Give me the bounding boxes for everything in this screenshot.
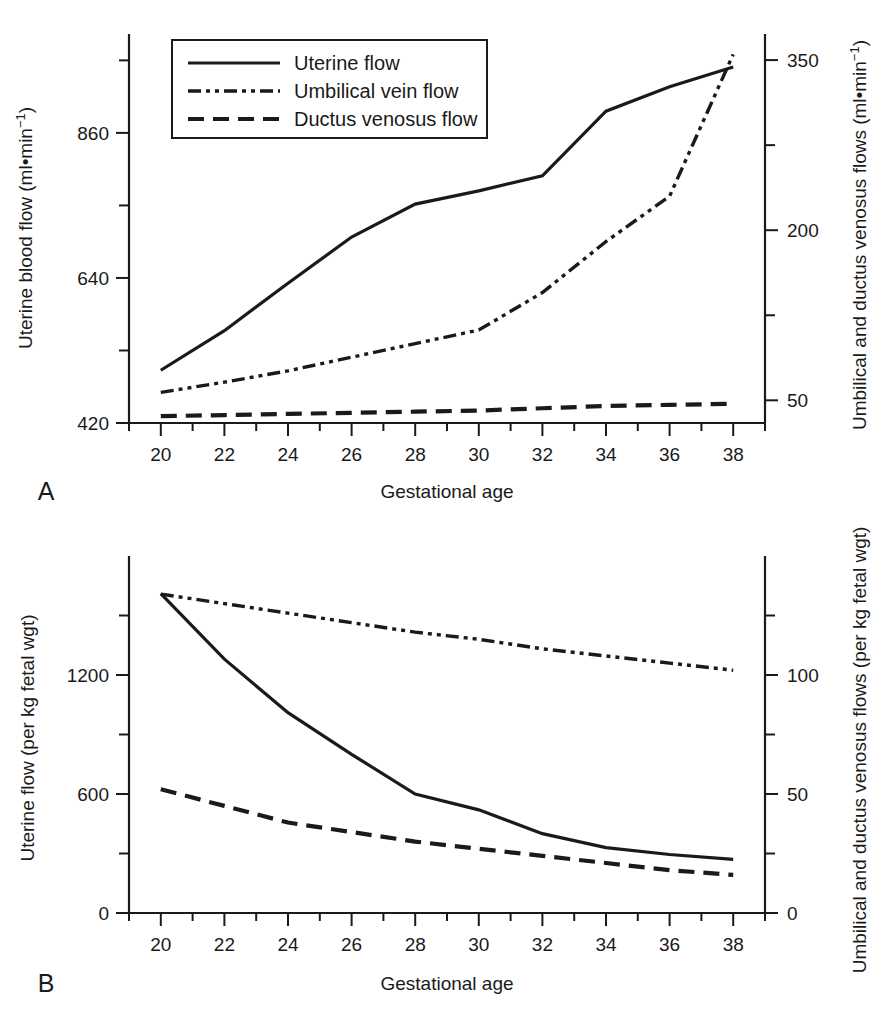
y-right-tick-label: 350 [787,50,819,71]
panel-a-plot: 2022242628303234363842064086050200350Ute… [0,0,890,520]
y-right-tick-label: 200 [787,220,819,241]
y-axis-left-tick-labels: 420640860 [77,123,109,434]
panel-b-xlabel: Gestational age [380,973,513,994]
x-tick-label: 28 [405,444,426,465]
x-tick-label: 36 [659,934,680,955]
x-tick-label: 22 [214,444,235,465]
legend-label: Uterine flow [294,52,400,74]
x-tick-label: 38 [723,934,744,955]
x-axis-ticks [129,423,765,436]
y-left-tick-label: 420 [77,413,109,434]
legend: Uterine flowUmbilical vein flowDuctus ve… [172,40,487,138]
panel-a-ylabel-left: Uterine blood flow (ml•min−1) [13,107,37,349]
y-axis-left-ticks [116,616,129,914]
panel-b-axes [129,556,765,913]
y-right-tick-label: 50 [787,390,808,411]
y-axis-right-ticks [765,616,778,914]
legend-label: Ductus venosus flow [294,108,478,130]
panel-b: 2022242628303234363806001200050100Uterin… [0,520,890,1027]
x-tick-label: 32 [532,934,553,955]
panel-a-letter: A [38,477,55,505]
x-axis-tick-labels: 20222426283032343638 [150,444,744,465]
x-tick-label: 20 [150,934,171,955]
y-right-tick-label: 0 [787,903,798,924]
y-left-tick-label: 1200 [67,665,109,686]
y-axis-right-tick-labels: 050100 [787,665,819,924]
y-right-tick-label: 100 [787,665,819,686]
x-tick-label: 22 [214,934,235,955]
panel-a-xlabel: Gestational age [380,481,513,502]
y-axis-left-tick-labels: 06001200 [67,665,109,924]
panel-b-letter: B [38,969,55,997]
x-axis-tick-labels: 20222426283032343638 [150,934,744,955]
y-left-tick-label: 640 [77,268,109,289]
y-right-tick-label: 50 [787,784,808,805]
series-line-ductus-venosus-flow [161,404,733,416]
x-tick-label: 34 [595,934,617,955]
y-left-tick-label: 0 [98,903,109,924]
panel-a-ylabel-right: Umbilical and ductus venosus flows (ml•m… [847,40,871,430]
x-tick-label: 28 [405,934,426,955]
y-axis-right-ticks [765,60,778,400]
x-tick-label: 26 [341,934,362,955]
x-tick-label: 30 [468,934,489,955]
x-tick-label: 32 [532,444,553,465]
x-tick-label: 36 [659,444,680,465]
y-axis-left-ticks [116,60,129,423]
series-line-uterine-flow [161,594,733,860]
x-tick-label: 30 [468,444,489,465]
panel-a: 2022242628303234363842064086050200350Ute… [0,0,890,520]
panel-b-plot: 2022242628303234363806001200050100Uterin… [0,520,890,1027]
series-line-umbilical-vein-flow [161,594,733,670]
legend-label: Umbilical vein flow [294,80,459,102]
figure-root: 2022242628303234363842064086050200350Ute… [0,0,890,1027]
data-series-group [161,594,733,875]
y-axis-right-tick-labels: 50200350 [787,50,819,411]
x-tick-label: 24 [277,934,299,955]
x-tick-label: 38 [723,444,744,465]
x-axis-ticks [129,913,765,926]
y-left-tick-label: 860 [77,123,109,144]
x-tick-label: 34 [595,444,617,465]
x-tick-label: 24 [277,444,299,465]
y-left-tick-label: 600 [77,784,109,805]
x-tick-label: 26 [341,444,362,465]
panel-b-ylabel-left: Uterine flow (per kg fetal wgt) [17,614,38,861]
x-tick-label: 20 [150,444,171,465]
panel-b-ylabel-right: Umbilical and ductus venosus flows (per … [849,527,870,974]
